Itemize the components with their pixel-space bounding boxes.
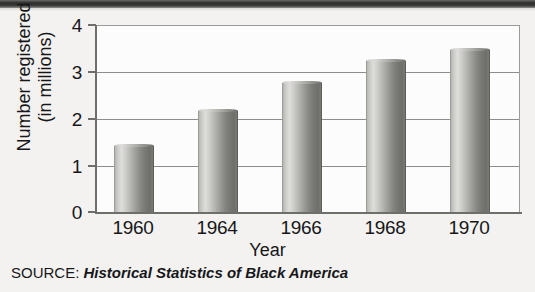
- bar-1960[interactable]: [114, 146, 154, 212]
- y-tick-label-4: 4: [62, 15, 82, 37]
- bar-1966[interactable]: [282, 83, 322, 212]
- y-tick-mark-3: [88, 71, 96, 73]
- y-axis-title-line2: (in millions): [35, 0, 56, 172]
- bar-cap-1966: [282, 81, 322, 84]
- y-tick-label-0: 0: [62, 202, 82, 224]
- bar-cap-1960: [114, 144, 154, 147]
- x-tick-label-1960: 1960: [98, 217, 168, 239]
- y-tick-label-1: 1: [62, 156, 82, 178]
- y-tick-mark-2: [88, 118, 96, 120]
- bar-1970[interactable]: [450, 50, 490, 212]
- bar-1964[interactable]: [198, 111, 238, 212]
- chart-page: Number registered (in millions) 4 3 2 1 …: [0, 0, 535, 292]
- source-title: Historical Statistics of Black America: [84, 264, 349, 281]
- source-note: SOURCE: Historical Statistics of Black A…: [11, 264, 348, 281]
- x-axis-line: [96, 212, 522, 214]
- x-tick-label-1966: 1966: [266, 217, 336, 239]
- scan-edge-shadow: [0, 8, 535, 11]
- x-tick-label-1964: 1964: [182, 217, 252, 239]
- y-tick-label-3: 3: [62, 62, 82, 84]
- scan-edge-band: [0, 0, 535, 8]
- y-tick-mark-1: [88, 165, 96, 167]
- x-tick-label-1970: 1970: [434, 217, 504, 239]
- y-tick-mark-4: [88, 24, 96, 26]
- plot-area: [96, 25, 520, 213]
- bar-1968[interactable]: [366, 61, 406, 212]
- bar-cap-1968: [366, 59, 406, 62]
- bar-cap-1970: [450, 48, 490, 51]
- y-axis-title-line1: Number registered: [14, 0, 35, 172]
- y-axis-title: Number registered (in millions): [14, 0, 56, 172]
- y-tick-mark-0: [88, 211, 96, 213]
- x-axis-title: Year: [0, 240, 535, 261]
- source-prefix: SOURCE:: [11, 264, 79, 281]
- y-tick-label-2: 2: [62, 109, 82, 131]
- x-tick-label-1968: 1968: [350, 217, 420, 239]
- bar-cap-1964: [198, 109, 238, 112]
